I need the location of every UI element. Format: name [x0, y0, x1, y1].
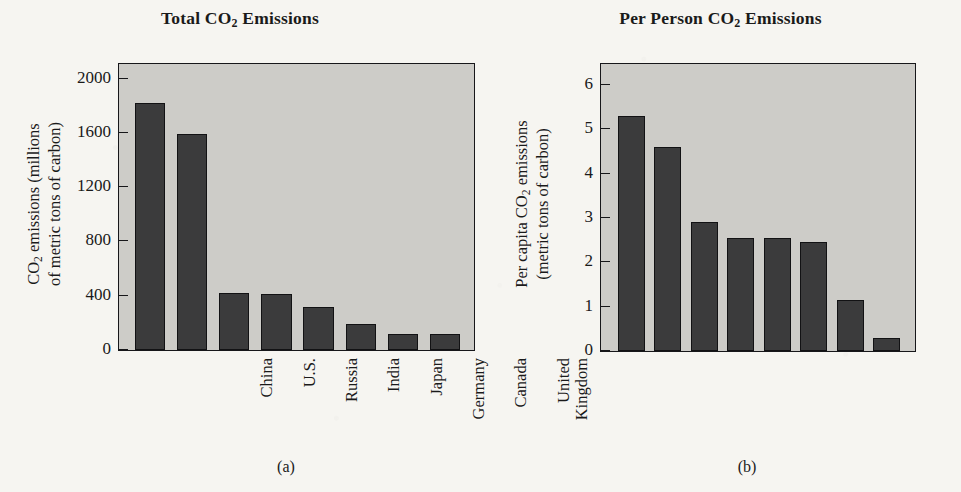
ytick-label-1600: 1600	[65, 123, 111, 140]
chart-a-title-main: Total CO	[161, 8, 231, 28]
chart-a-yaxis-line1-tail: emissions (millions	[24, 123, 43, 256]
bar-slot	[255, 64, 297, 350]
xaxis-label-line: China	[257, 358, 276, 397]
figure-two-bar-charts: Total CO2 Emissions CO2 emissions (milli…	[0, 0, 961, 492]
bar-japan	[303, 307, 333, 350]
chart-a-subcaption: (a)	[256, 458, 316, 476]
bar-russia	[219, 293, 249, 350]
chart-b-yaxis-line1-subscript: 2	[520, 189, 532, 195]
ytick-label-0: 0	[577, 341, 593, 358]
ytick-label-5: 5	[577, 119, 593, 136]
chart-b-yaxis-title-line1: Per capita CO2 emissions	[512, 63, 533, 345]
bar-india	[261, 294, 291, 350]
chart-a-yaxis-title-line2: of metric tons of carbon)	[45, 63, 64, 345]
xaxis-label-line: Russia	[342, 358, 361, 402]
bar-canada	[388, 334, 418, 350]
xaxis-label-india: India	[385, 358, 403, 458]
chart-b-bars	[601, 64, 915, 351]
bar-slot	[796, 64, 833, 351]
xaxis-label-line: India	[384, 358, 403, 392]
ytick-label-3: 3	[577, 208, 593, 225]
xaxis-label-line: Japan	[427, 358, 446, 396]
bar-china	[135, 103, 165, 350]
chart-b-yaxis-title-line2: (metric tons of carbon)	[533, 63, 552, 345]
ytick-label-800: 800	[65, 231, 111, 248]
ytick-label-1200: 1200	[65, 177, 111, 194]
xaxis-label-russia: Russia	[343, 358, 361, 458]
bar-russia	[691, 222, 718, 351]
chart-a-yaxis-title-line1: CO2 emissions (millions	[24, 63, 45, 345]
bar-slot	[832, 64, 869, 351]
bar-slot	[759, 64, 796, 351]
ytick-label-6: 6	[577, 75, 593, 92]
bar-slot	[723, 64, 760, 351]
chart-a-title-tail: Emissions	[238, 8, 319, 28]
ytick-label-2000: 2000	[65, 69, 111, 86]
chart-a-bars	[119, 64, 474, 350]
bar-u-s	[177, 134, 207, 350]
xaxis-label-u-s: U.S.	[301, 358, 319, 458]
bar-japan	[764, 238, 791, 351]
ytick-label-1: 1	[577, 297, 593, 314]
bar-united-kingdom	[430, 334, 460, 350]
chart-b-title-tail: Emissions	[740, 8, 821, 28]
chart-b-title-main: Per Person CO	[619, 8, 734, 28]
chart-a-plot-area	[118, 63, 475, 351]
bar-canada	[654, 147, 681, 351]
bar-germany	[346, 324, 376, 350]
chart-b-yaxis-line1-main: Per capita CO	[512, 195, 531, 288]
bar-slot	[869, 64, 906, 351]
bar-germany	[727, 238, 754, 351]
xaxis-label-japan: Japan	[428, 358, 446, 458]
ytick-label-4: 4	[577, 164, 593, 181]
bar-china	[837, 300, 864, 351]
chart-a-yaxis-line1-subscript: 2	[32, 256, 44, 262]
bar-slot	[613, 64, 650, 351]
bar-u-s	[618, 116, 645, 351]
xaxis-label-china: China	[258, 358, 276, 458]
bar-slot	[340, 64, 382, 350]
chart-a-yaxis-line1-main: CO	[24, 262, 43, 285]
chart-a-title-subscript: 2	[232, 16, 238, 30]
bar-slot	[171, 64, 213, 350]
bar-slot	[298, 64, 340, 350]
chart-b-yaxis-line1-tail: emissions	[512, 120, 531, 189]
chart-b-subcaption: (b)	[717, 458, 777, 476]
chart-a-title: Total CO2 Emissions	[0, 8, 480, 29]
bar-slot	[382, 64, 424, 350]
bar-india	[873, 338, 900, 351]
chart-panel-a: Total CO2 Emissions CO2 emissions (milli…	[0, 0, 480, 492]
ytick-label-2: 2	[577, 252, 593, 269]
ytick-label-400: 400	[65, 286, 111, 303]
chart-b-title: Per Person CO2 Emissions	[480, 8, 961, 29]
chart-b-title-subscript: 2	[734, 16, 740, 30]
ytick-label-0: 0	[65, 340, 111, 357]
chart-b-plot-area	[600, 63, 916, 352]
bar-slot	[424, 64, 466, 350]
bar-united-kingdom	[800, 242, 827, 351]
bar-slot	[213, 64, 255, 350]
bar-slot	[129, 64, 171, 350]
bar-slot	[686, 64, 723, 351]
xaxis-label-line: U.S.	[300, 358, 319, 387]
bar-slot	[650, 64, 687, 351]
